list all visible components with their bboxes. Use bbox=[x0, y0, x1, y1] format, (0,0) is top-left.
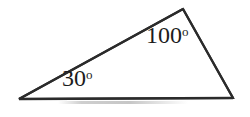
degree-symbol-icon: o bbox=[86, 67, 93, 82]
base-edge bbox=[19, 98, 233, 99]
triangle-figure: 30o 100o bbox=[0, 0, 250, 117]
degree-symbol-icon: o bbox=[182, 24, 189, 39]
triangle-drawing bbox=[0, 0, 250, 117]
scan-artifact bbox=[58, 101, 188, 104]
angle-30-value: 30 bbox=[62, 65, 86, 91]
angle-label-100-degrees: 100o bbox=[146, 23, 189, 47]
triangle-outline bbox=[19, 9, 233, 99]
angle-100-value: 100 bbox=[146, 22, 182, 48]
angle-label-30-degrees: 30o bbox=[62, 66, 93, 90]
